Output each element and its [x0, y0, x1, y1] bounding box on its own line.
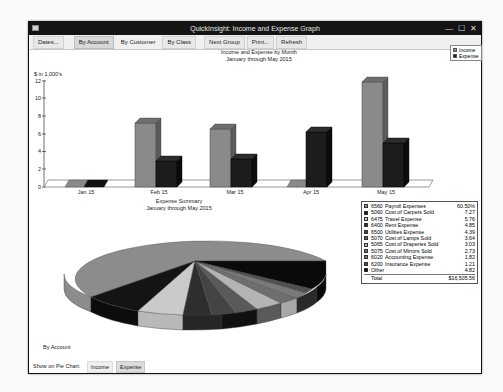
x-tick-apr: Apr 15 [291, 189, 331, 195]
swatch-icon [364, 204, 368, 208]
total-label: Total [371, 275, 435, 281]
show-on-pie-label: Show on Pie Chart: [33, 363, 80, 369]
x-tick-feb: Feb 15 [139, 189, 179, 195]
swatch-icon [364, 249, 368, 253]
pie-chart-title: Expense Summary January through May 2015 [119, 198, 239, 212]
swatch-icon [364, 230, 368, 234]
bar-feb-expense [156, 156, 182, 187]
pie-total-row: Total$16,505.56 [364, 274, 475, 281]
bar-mar-expense [231, 154, 257, 187]
pie-chart-plot [29, 217, 359, 337]
x-tick-feb-label: Feb 15 [150, 189, 167, 195]
income-pie-button[interactable]: Income [87, 361, 113, 373]
x-tick-may-label: May 15 [377, 189, 395, 195]
x-tick-may: May 15 [366, 189, 406, 195]
bar-may-expense [383, 138, 409, 187]
pie-chart-subtitle: January through May 2015 [119, 205, 239, 212]
group-by-label: By Account [43, 344, 71, 350]
swatch-icon [364, 262, 368, 266]
pie-chart-title-text: Expense Summary [119, 198, 239, 205]
account-name[interactable]: Other [371, 267, 449, 273]
x-tick-jan-label: Jan 15 [78, 189, 95, 195]
x-tick-apr-label: Apr 15 [303, 189, 319, 195]
x-tick-mar: Mar 15 [215, 189, 255, 195]
bar-apr-expense [306, 127, 332, 187]
swatch-icon [364, 211, 368, 215]
swatch-icon [364, 223, 368, 227]
swatch-icon [364, 217, 368, 221]
swatch-icon [364, 255, 368, 259]
total-value: $16,505.56 [435, 275, 475, 281]
swatch-icon [364, 236, 368, 240]
x-tick-mar-label: Mar 15 [226, 189, 243, 195]
account-pct: 4.82 [449, 267, 475, 273]
expense-pie-button[interactable]: Expense [116, 361, 145, 373]
quickinsight-window: QuickInsight: Income and Expense Graph —… [28, 21, 482, 374]
spacer [364, 277, 368, 281]
swatch-icon [364, 243, 368, 247]
x-tick-jan: Jan 15 [66, 189, 106, 195]
pie-legend-table: 6560Payroll Expenses60.50% 5060Cost of C… [361, 201, 478, 284]
pie-row-other[interactable]: Other4.82 [364, 267, 475, 273]
swatch-icon [364, 268, 368, 272]
